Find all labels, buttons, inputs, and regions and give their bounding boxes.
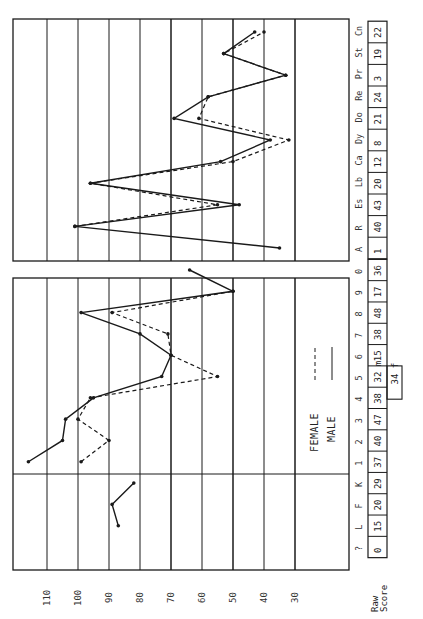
scale-label-F: F bbox=[354, 503, 364, 508]
scale-label-9: 9 bbox=[354, 290, 364, 295]
raw-score-table: ?0L15F20K29137240347438532 m615738848917… bbox=[354, 21, 402, 557]
scale-label-Es: Es bbox=[354, 199, 364, 209]
data-point bbox=[107, 439, 111, 443]
data-point bbox=[110, 503, 114, 507]
tick-90: 90 bbox=[104, 592, 114, 603]
raw-score-2: 40 bbox=[373, 436, 383, 447]
data-point bbox=[197, 117, 201, 121]
raw-score-Dy: 8 bbox=[373, 141, 383, 146]
legend-male-label: MALE bbox=[326, 416, 337, 442]
data-point bbox=[231, 160, 235, 164]
raw-score-5-female: 34 f bbox=[390, 363, 400, 385]
data-point bbox=[287, 138, 291, 142]
tick-50: 50 bbox=[228, 592, 238, 603]
raw-score-3: 47 bbox=[373, 414, 383, 425]
research-panel-grid bbox=[13, 19, 349, 261]
data-point bbox=[64, 417, 68, 421]
data-point bbox=[237, 203, 241, 207]
scale-label-Do: Do bbox=[354, 112, 364, 122]
raw-score-L: 15 bbox=[373, 521, 383, 532]
data-point bbox=[169, 353, 173, 357]
raw-score-Cn: 22 bbox=[373, 27, 383, 38]
scale-label-L: L bbox=[354, 525, 364, 530]
raw-score-F: 20 bbox=[373, 500, 383, 511]
scale-label-Pr: Pr bbox=[354, 69, 364, 79]
scale-label-2: 2 bbox=[354, 439, 364, 444]
data-point bbox=[166, 332, 170, 336]
data-point bbox=[284, 73, 288, 77]
tick-110: 110 bbox=[42, 590, 52, 606]
scale-label-8: 8 bbox=[354, 311, 364, 316]
data-point bbox=[73, 225, 77, 229]
data-point bbox=[216, 375, 220, 379]
profile-lines bbox=[27, 30, 291, 527]
clinical-panel-frame bbox=[13, 278, 349, 570]
scale-label-Ca: Ca bbox=[354, 155, 364, 165]
tick-60: 60 bbox=[197, 592, 207, 603]
raw-score-Do: 21 bbox=[373, 114, 383, 125]
data-point bbox=[117, 524, 121, 528]
scale-label-4: 4 bbox=[354, 397, 364, 402]
clinical-male-line bbox=[112, 483, 134, 526]
tick-100: 100 bbox=[73, 590, 83, 606]
data-point bbox=[27, 460, 31, 464]
raw-score-Lb: 20 bbox=[373, 178, 383, 189]
data-point bbox=[138, 332, 142, 336]
data-point bbox=[206, 95, 210, 99]
raw-score-8: 48 bbox=[373, 308, 383, 319]
raw-score-Es: 43 bbox=[373, 200, 383, 211]
raw-score-R: 40 bbox=[373, 222, 383, 233]
raw-score-7: 38 bbox=[373, 329, 383, 340]
data-point bbox=[61, 439, 65, 443]
raw-score-Re: 24 bbox=[373, 92, 383, 103]
tscore-axis-ticks: 11010090807060504030 bbox=[42, 590, 300, 606]
raw-label-line2: Score bbox=[379, 585, 389, 612]
clinical-panel-grid bbox=[13, 278, 349, 570]
mmpi-profile-chart: 11010090807060504030 ?0L15F20K2913724034… bbox=[0, 0, 423, 619]
scale-label-Dy: Dy bbox=[354, 134, 364, 144]
legend-female-label: FEMALE bbox=[309, 413, 320, 452]
scale-label-?: ? bbox=[354, 546, 364, 551]
data-point bbox=[160, 375, 164, 379]
data-point bbox=[278, 246, 282, 250]
research-female-line bbox=[75, 32, 289, 226]
raw-score-?: 0 bbox=[373, 548, 383, 553]
scale-label-Cn: Cn bbox=[354, 26, 364, 36]
scale-label-A: A bbox=[354, 247, 364, 252]
scale-label-K: K bbox=[354, 481, 364, 487]
scale-label-1: 1 bbox=[354, 461, 364, 466]
raw-score-5: 32 m bbox=[373, 361, 383, 383]
data-point bbox=[222, 52, 226, 56]
data-point bbox=[262, 30, 266, 34]
scale-label-0: 0 bbox=[354, 269, 364, 274]
raw-score-0: 36 bbox=[373, 265, 383, 276]
raw-score-6: 15 bbox=[373, 350, 383, 361]
raw-score-axis-label: Raw Score bbox=[370, 585, 389, 612]
scale-label-6: 6 bbox=[354, 354, 364, 359]
raw-score-9: 17 bbox=[373, 286, 383, 297]
data-point bbox=[172, 117, 176, 121]
chart-legend: FEMALE MALE bbox=[309, 347, 337, 452]
raw-score-A: 1 bbox=[373, 249, 383, 254]
data-point bbox=[76, 417, 80, 421]
scale-label-R: R bbox=[354, 224, 364, 230]
tick-40: 40 bbox=[259, 592, 269, 603]
data-point bbox=[231, 290, 235, 294]
tick-80: 80 bbox=[135, 592, 145, 603]
clinical-female-line bbox=[78, 291, 233, 461]
raw-score-K: 29 bbox=[373, 478, 383, 489]
scale-label-Re: Re bbox=[354, 91, 364, 101]
scale-label-Lb: Lb bbox=[354, 177, 364, 187]
data-point bbox=[79, 311, 83, 315]
raw-score-Ca: 12 bbox=[373, 157, 383, 168]
data-point bbox=[216, 203, 220, 207]
data-point bbox=[89, 396, 93, 400]
raw-score-4: 38 bbox=[373, 393, 383, 404]
research-panel-frame bbox=[13, 19, 349, 261]
scale-label-St: St bbox=[354, 47, 364, 57]
data-point bbox=[110, 311, 114, 315]
scale-label-5: 5 bbox=[354, 375, 364, 380]
raw-score-1: 37 bbox=[373, 457, 383, 468]
tick-30: 30 bbox=[290, 592, 300, 603]
data-point bbox=[188, 268, 192, 272]
